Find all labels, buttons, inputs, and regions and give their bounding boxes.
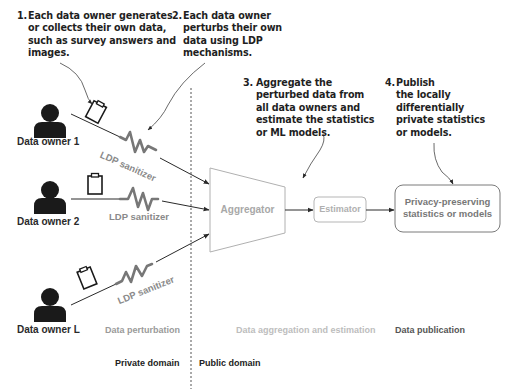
note-line: Publish xyxy=(396,77,485,89)
note-line: estimate the statistics xyxy=(256,114,374,126)
clipboard-icon-owner-1 xyxy=(86,99,108,123)
output-label-line-2: statistics or models xyxy=(395,208,500,219)
note-line: perturbed data from xyxy=(256,89,374,101)
ldp-diagram: 1. Each data owner generates or collects… xyxy=(0,0,512,389)
aggregator-label: Aggregator xyxy=(210,204,285,215)
phase-label-perturbation: Data perturbation xyxy=(105,325,180,335)
note-line: data using LDP xyxy=(183,35,282,47)
estimator-label: Estimator xyxy=(314,204,366,214)
person-icon-owner-2 xyxy=(34,181,66,214)
noise-icon-sanitizer-L xyxy=(116,264,152,284)
note-line: or models. xyxy=(396,127,485,139)
flow-line-owner-L xyxy=(71,284,116,305)
person-icon-owner-1 xyxy=(34,104,66,138)
output-label-line-1: Privacy-preserving xyxy=(395,196,500,207)
note-line: or collects their own data, xyxy=(28,22,176,34)
note-line: Aggregate the xyxy=(256,77,374,89)
note-line: perturbs their own xyxy=(183,22,282,34)
step-number: 1. xyxy=(17,10,27,22)
phase-label-aggregation: Data aggregation and estimation xyxy=(236,325,376,335)
note-line: Each data owner xyxy=(183,10,282,22)
note-line: differentially xyxy=(396,102,485,114)
note-line: Each data owner generates xyxy=(28,10,176,22)
private-domain-label: Private domain xyxy=(115,358,180,368)
note-line: the locally xyxy=(396,89,485,101)
note-line: mechanisms. xyxy=(183,47,282,59)
note-line: images. xyxy=(28,47,176,59)
owner-label-L: Data owner L xyxy=(17,324,80,335)
step-number: 2. xyxy=(172,10,182,22)
flow-arrow-owner-1 xyxy=(160,158,209,184)
owner-label-2: Data owner 2 xyxy=(17,216,79,227)
step-number: 3. xyxy=(243,77,253,89)
sanitizer-label-2: LDP sanitizer xyxy=(109,211,169,222)
flow-arrow-owner-2 xyxy=(162,201,209,210)
note-line: all data owners and xyxy=(256,102,374,114)
noise-icon-sanitizer-2 xyxy=(120,188,158,210)
phase-label-publication: Data publication xyxy=(395,325,465,335)
clipboard-icon-owner-2 xyxy=(88,174,102,195)
flow-line-owner-1 xyxy=(71,114,120,137)
note-line: such as survey answers and xyxy=(28,35,176,47)
step-number: 4. xyxy=(385,77,395,89)
person-icon-owner-L xyxy=(34,288,66,322)
public-domain-label: Public domain xyxy=(199,358,261,368)
callout-arrow-note-4 xyxy=(434,143,453,184)
callout-arrow-note-3 xyxy=(303,134,324,178)
flow-arrow-owner-L xyxy=(156,234,209,262)
callout-arrow-note-1 xyxy=(60,63,92,104)
owner-label-1: Data owner 1 xyxy=(17,136,79,147)
clipboard-icon-owner-L xyxy=(76,265,96,289)
note-line: private statistics xyxy=(396,114,485,126)
note-line: or ML models. xyxy=(256,127,374,139)
callout-arrow-note-2 xyxy=(148,63,205,130)
noise-icon-sanitizer-1 xyxy=(120,132,156,152)
